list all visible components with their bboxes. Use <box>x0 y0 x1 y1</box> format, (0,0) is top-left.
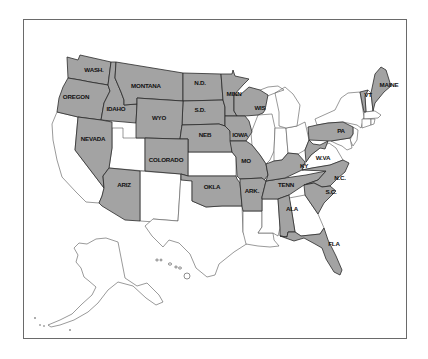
state-hi[interactable] <box>156 259 190 279</box>
state-nm[interactable] <box>140 171 181 222</box>
state-nd[interactable] <box>183 73 223 101</box>
label-ky: KY <box>300 162 309 169</box>
label-wi: WIS <box>254 104 265 111</box>
label-mo: MO <box>241 157 251 164</box>
label-ia: IOWA <box>232 131 248 138</box>
label-mt: MONTANA <box>131 82 161 89</box>
label-sd: S.D. <box>194 106 206 113</box>
label-ne: NEB <box>199 131 212 138</box>
state-ak[interactable] <box>48 238 163 327</box>
label-fl: FLA <box>328 240 340 247</box>
state-me[interactable] <box>371 67 391 111</box>
label-pa: PA <box>337 127 345 134</box>
aleutian-islands <box>34 317 71 331</box>
label-nd: N.D. <box>194 79 206 86</box>
state-ri[interactable] <box>371 119 375 125</box>
state-ar[interactable] <box>240 178 266 211</box>
state-az[interactable] <box>99 168 140 221</box>
label-nv: NEVADA <box>81 135 106 142</box>
label-sc: S.C. <box>325 188 337 195</box>
state-ma[interactable] <box>364 111 381 119</box>
label-wa: WASH. <box>84 66 104 73</box>
label-wv: W.VA <box>316 154 331 161</box>
us-state-map: WASH. OREGON IDAHO MONTANA N.D. S.D. MIN… <box>0 0 428 359</box>
label-mn: MINN <box>226 90 242 97</box>
label-me: MAINE <box>380 81 399 88</box>
state-sd[interactable] <box>182 100 225 126</box>
state-ct[interactable] <box>362 119 371 128</box>
label-wy: WYO <box>152 114 167 121</box>
state-pa[interactable] <box>308 122 353 141</box>
label-ok: OKLA <box>204 183 221 190</box>
label-nc: N.C. <box>334 174 346 181</box>
state-ks[interactable] <box>188 152 236 176</box>
label-co: COLORADO <box>149 156 184 163</box>
label-az: ARIZ <box>117 181 131 188</box>
label-al: ALA <box>286 205 299 212</box>
label-tn: TENN <box>278 181 295 188</box>
state-fl[interactable] <box>280 228 342 275</box>
label-id: IDAHO <box>107 105 126 112</box>
label-or: OREGON <box>63 93 90 100</box>
label-ar: ARK. <box>245 187 260 194</box>
label-vt: VT <box>364 91 372 98</box>
